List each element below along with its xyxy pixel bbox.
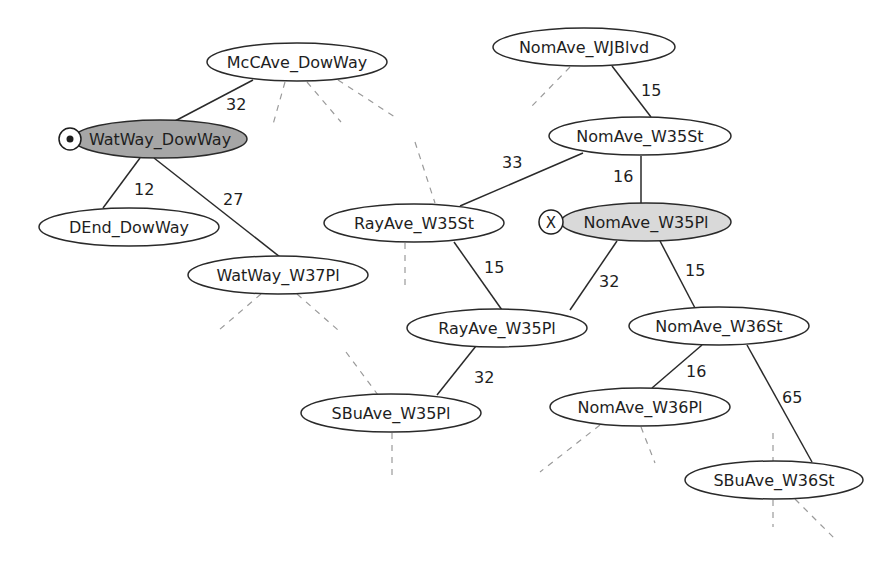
edge-weight-label: 65 [782,388,802,407]
node-WatWay_W37Pl[interactable]: WatWay_W37Pl [188,256,368,294]
node-NomAve_W36St[interactable]: NomAve_W36St [629,307,809,345]
node-label: WatWay_W37Pl [216,266,339,286]
node-SBuAve_W35Pl[interactable]: SBuAve_W35Pl [301,394,481,432]
edge-WatWay_DowWay-DEnd_DowWay: 12 [103,158,154,208]
unexplored-edge [531,67,570,107]
edge-weight-label: 32 [474,368,494,387]
node-RayAve_W35St[interactable]: RayAve_W35St [324,204,504,242]
edge-NomAve_W35Pl-NomAve_W36St: 15 [660,241,705,308]
node-DEnd_DowWay[interactable]: DEnd_DowWay [39,208,219,246]
edge-weight-label: 33 [502,153,522,172]
node-NomAve_W35Pl[interactable]: NomAve_W35Pl [561,203,731,241]
edge-NomAve_W35St-RayAve_W35St: 33 [460,153,583,206]
node-WatWay_DowWay[interactable]: WatWay_DowWay [73,120,247,158]
svg-text:X: X [546,214,556,232]
unexplored-edge [415,142,435,203]
edge-line [437,346,476,395]
edge-NomAve_W35Pl-RayAve_W35Pl: 32 [570,241,619,310]
edge-NomAve_WJBlvd-NomAve_W35St: 15 [612,66,661,117]
node-label: NomAve_WJBlvd [519,38,649,58]
edge-RayAve_W35Pl-SBuAve_W35Pl: 32 [437,346,494,395]
edge-NomAve_W35St-NomAve_W35Pl: 16 [613,156,641,203]
edge-weight-label: 15 [641,81,661,100]
edge-weight-label: 32 [226,95,246,114]
node-label: NomAve_W35Pl [584,213,709,233]
edge-McCAve_DowWay-WatWay_DowWay: 32 [175,80,253,121]
edge-weight-label: 12 [134,180,154,199]
node-label: NomAve_W36St [655,317,782,337]
unexplored-edge [540,425,600,472]
unexplored-edge [338,80,395,117]
node-label: WatWay_DowWay [89,130,231,150]
unexplored-edge [641,427,655,463]
start-target-icon [59,128,81,150]
node-label: McCAve_DowWay [227,53,367,73]
node-NomAve_WJBlvd[interactable]: NomAve_WJBlvd [493,28,675,66]
unexplored-edge [297,294,338,330]
node-label: SBuAve_W36St [713,471,834,491]
node-label: DEnd_DowWay [69,218,189,238]
edge-weight-label: 32 [599,272,619,291]
node-SBuAve_W36St[interactable]: SBuAve_W36St [685,461,863,499]
unexplored-edge [346,352,378,395]
edge-weight-label: 16 [613,167,633,186]
edge-weight-label: 15 [685,261,705,280]
unexplored-edge [795,499,834,538]
unexplored-edge [272,82,285,128]
node-RayAve_W35Pl[interactable]: RayAve_W35Pl [407,309,587,347]
edge-NomAve_W36St-SBuAve_W36St: 65 [747,345,812,462]
node-label: RayAve_W35St [354,214,474,234]
node-NomAve_W36Pl[interactable]: NomAve_W36Pl [550,388,730,426]
node-NomAve_W35St[interactable]: NomAve_W35St [549,117,731,155]
node-label: NomAve_W35St [576,127,703,147]
search-graph-canvas: 321227153316153215321665 McCAve_DowWayWa… [0,0,896,561]
edge-weight-label: 16 [686,362,706,381]
node-McCAve_DowWay[interactable]: McCAve_DowWay [207,43,387,81]
edge-RayAve_W35St-RayAve_W35Pl: 15 [454,242,504,310]
edge-weight-label: 27 [223,190,243,209]
unexplored-edge [219,294,261,330]
node-label: RayAve_W35Pl [438,319,556,339]
edge-weight-label: 15 [484,258,504,277]
node-label: SBuAve_W35Pl [332,404,451,424]
unexplored-edge [307,82,341,122]
nodes-layer: McCAve_DowWayWatWay_DowWayDEnd_DowWayWat… [39,28,863,499]
node-label: NomAve_W36Pl [578,398,703,418]
edge-NomAve_W36St-NomAve_W36Pl: 16 [652,345,706,388]
goal-x-icon: X [539,210,563,234]
